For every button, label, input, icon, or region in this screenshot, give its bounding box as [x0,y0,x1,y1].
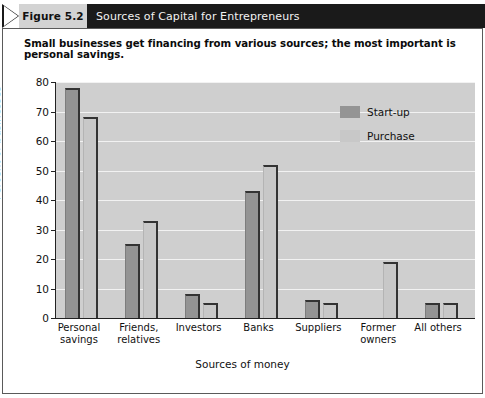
legend-label-purchase: Purchase [367,130,415,142]
y-axis-tick-label: 60 [9,135,49,147]
gridline [56,82,475,83]
y-axis-tick-mark [51,259,55,260]
y-axis-tick-mark [51,171,55,172]
y-axis-tick-label: 10 [9,283,49,295]
chart-legend: Start-up Purchase [340,100,460,148]
y-axis-tick-mark [51,141,55,142]
chart-bar [323,303,338,318]
chart-bar [143,221,158,318]
legend-swatch-purchase [340,130,360,142]
figure-subtitle: Small businesses get financing from vari… [24,38,469,60]
y-axis-tick-label: 30 [9,224,49,236]
x-axis-tick-line: relatives [109,334,169,346]
x-axis-tick-line: Investors [169,322,229,334]
y-axis-tick-label: 40 [9,194,49,206]
y-axis-tick-label: 70 [9,106,49,118]
figure-title: Sources of Capital for Entrepreneurs [96,4,300,28]
chart-bar [83,117,98,318]
y-axis-label: Percent of businesses [0,86,2,200]
x-axis-tick-line: Banks [229,322,289,334]
legend-item-startup: Start-up [340,100,460,124]
x-axis-tick-line: Friends, [109,322,169,334]
legend-label-startup: Start-up [367,106,410,118]
y-axis-tick-label: 0 [9,312,49,324]
chart-bar [125,244,140,318]
chart-bar [383,262,398,318]
x-axis-tick-label: Formerowners [348,322,408,346]
x-axis-tick-line: All others [408,322,468,334]
y-axis-tick-label: 50 [9,165,49,177]
x-axis-tick-line: Personal [49,322,109,334]
figure-container: Figure 5.2 Sources of Capital for Entrep… [0,0,485,398]
chart-bar [65,88,80,318]
x-axis-label: Sources of money [0,358,485,370]
chart-bar [425,303,440,318]
x-axis-tick-line: owners [348,334,408,346]
legend-item-purchase: Purchase [340,124,460,148]
chart-bar [305,300,320,318]
y-axis-tick-mark [51,112,55,113]
chart-bar [443,303,458,318]
y-axis-tick-mark [51,230,55,231]
chart-bar [185,294,200,318]
x-axis-tick-label: Banks [229,322,289,334]
x-axis-tick-label: All others [408,322,468,334]
y-axis-tick-mark [51,82,55,83]
x-axis-tick-line: savings [49,334,109,346]
figure-number-tag: Figure 5.2 [19,4,87,28]
x-axis-tick-label: Friends,relatives [109,322,169,346]
chart-bar [203,303,218,318]
chart-bar [245,191,260,318]
x-axis-tick-line: Suppliers [288,322,348,334]
y-axis-tick-mark [51,200,55,201]
legend-swatch-startup [340,106,360,118]
x-axis-tick-label: Personalsavings [49,322,109,346]
y-axis-tick-mark [51,318,55,319]
y-axis-tick-label: 20 [9,253,49,265]
x-axis-tick-line: Former [348,322,408,334]
x-axis-tick-label: Suppliers [288,322,348,334]
chart-bar [263,165,278,318]
y-axis-tick-mark [51,289,55,290]
x-axis-tick-label: Investors [169,322,229,334]
y-axis-tick-label: 80 [9,76,49,88]
